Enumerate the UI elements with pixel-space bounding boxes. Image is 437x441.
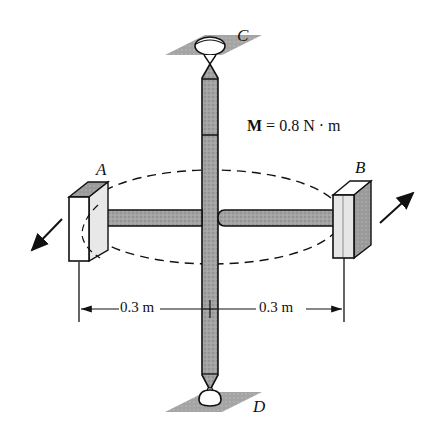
moment-symbol: M: [247, 117, 262, 134]
moment-equals: =: [266, 117, 275, 134]
moment-unit: N · m: [303, 117, 340, 134]
moment-annotation: M = 0.8 N · m: [247, 117, 340, 135]
dimension-label-right: 0.3 m: [258, 299, 294, 316]
vertical-shaft-cd: [202, 64, 218, 390]
force-arrow-b: [380, 193, 413, 223]
bearing-block-b: [333, 181, 371, 258]
point-label-d: D: [253, 397, 265, 417]
pivot-support-d: [165, 388, 262, 412]
point-label-b: B: [355, 158, 365, 178]
moment-value: 0.8: [279, 117, 299, 134]
point-label-c: C: [237, 26, 248, 46]
point-label-a: A: [96, 160, 106, 180]
force-arrow-a: [32, 219, 62, 250]
bearing-block-a: [69, 182, 108, 261]
figure-canvas: [0, 0, 437, 441]
dimension-label-left: 0.3 m: [119, 299, 155, 316]
